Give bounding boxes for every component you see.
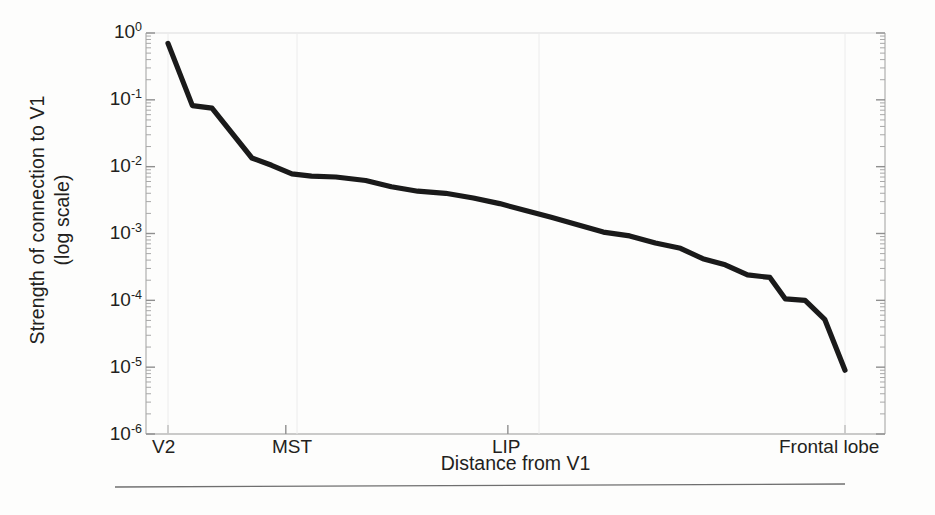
footer-rule (115, 484, 845, 487)
y-axis-minor-ticks (146, 36, 885, 414)
plot-svg (0, 0, 935, 515)
plot-frame (146, 33, 885, 434)
y-axis-major-ticks (146, 33, 885, 434)
figure-panel: Strength of connection to V1 (log scale)… (0, 0, 935, 515)
data-series-line (168, 43, 845, 370)
x-tick-guides (168, 33, 845, 434)
x-axis-ticks (168, 425, 845, 434)
